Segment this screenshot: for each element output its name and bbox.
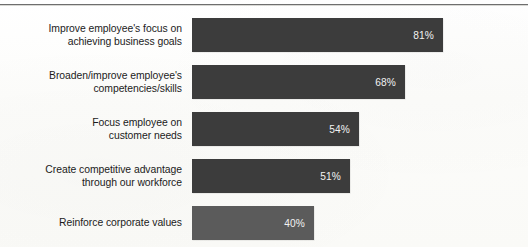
- bar-row: Create competitive advantage through our…: [0, 159, 528, 193]
- bar-category-label: Focus employee on customer needs: [14, 116, 182, 142]
- bar-chart: Improve employee's focus on achieving bu…: [0, 0, 528, 247]
- bar-category-label: Create competitive advantage through our…: [14, 163, 182, 189]
- bar-value-label: 81%: [413, 30, 434, 41]
- bar-track: 81%: [192, 18, 512, 52]
- bar-row: Reinforce corporate values 40%: [0, 206, 528, 240]
- bar-track: 51%: [192, 159, 512, 193]
- bar-value-label: 51%: [320, 171, 341, 182]
- bar-track: 68%: [192, 65, 512, 99]
- bar-row: Focus employee on customer needs 54%: [0, 112, 528, 146]
- bar-fill: 54%: [192, 112, 359, 146]
- bar-category-label: Improve employee's focus on achieving bu…: [14, 22, 182, 48]
- bar-fill: 40%: [192, 206, 314, 240]
- bar-row: Improve employee's focus on achieving bu…: [0, 18, 528, 52]
- bar-row: Broaden/improve employee's competencies/…: [0, 65, 528, 99]
- bar-fill: 68%: [192, 65, 405, 99]
- chart-plot-area: Improve employee's focus on achieving bu…: [0, 14, 528, 247]
- bar-value-label: 68%: [375, 77, 396, 88]
- bar-value-label: 54%: [329, 124, 350, 135]
- chart-top-rule: [0, 4, 528, 6]
- bar-fill: 81%: [192, 18, 443, 52]
- bar-category-label: Reinforce corporate values: [14, 216, 182, 229]
- bar-track: 54%: [192, 112, 512, 146]
- bar-value-label: 40%: [284, 218, 305, 229]
- bar-fill: 51%: [192, 159, 350, 193]
- bar-category-label: Broaden/improve employee's competencies/…: [14, 69, 182, 95]
- bar-track: 40%: [192, 206, 512, 240]
